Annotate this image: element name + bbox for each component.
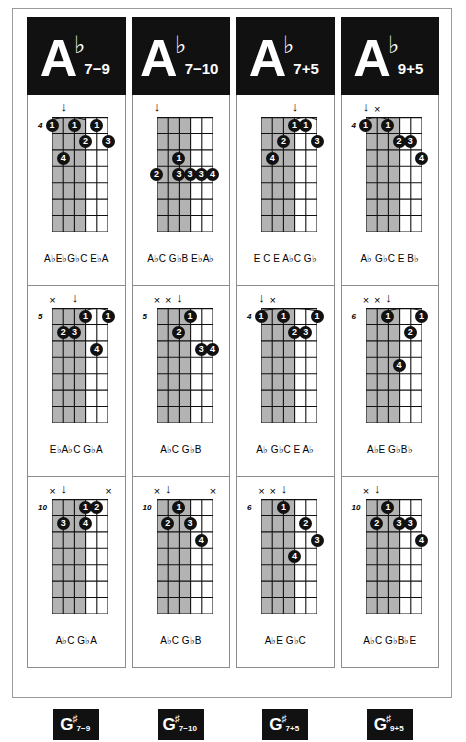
mute-x-icon: × [208,485,219,497]
root-arrow-icon: ↓ [152,101,163,113]
mute-x-icon: × [103,485,114,497]
finger-dot: 1 [299,119,312,132]
chord-note-names: A♭C G♭B [133,444,230,455]
footer-slot: G ♯ 7+5 [236,709,335,740]
fretboard-grid: 11234 [261,117,318,233]
finger-dot: 1 [102,310,115,323]
enharmonic-label-3: G ♯ 9+5 [367,709,413,740]
finger-dot: 4 [206,168,219,181]
finger-dot: 1 [277,310,290,323]
chord-diagram: ×↓×101234A♭C G♭B [133,483,230,615]
enharmonic-quality: 7−10 [179,725,197,733]
fretboard-grid: 1012334 [366,499,423,615]
fretboard-grid: 101234 [52,499,109,615]
chord-note-names: A♭C G♭B♭E [342,635,439,646]
chord-voicing-cell: ↓4111234A♭E♭G♭C E♭A [28,95,125,286]
string-markers: ↓ [52,101,108,117]
fret-number: 5 [38,312,42,321]
chord-note-names: A♭ G♭C E B♭ [342,253,439,264]
chord-accidental: ♭ [74,33,85,57]
string-markers: ↓× [261,292,317,308]
chord-columns: A ♭ 7−9 ↓4111234A♭E♭G♭C E♭A×↓511234E♭A♭C… [27,17,439,668]
mute-x-icon: × [256,485,267,497]
fret-number: 10 [143,503,152,512]
chord-quality: 7−10 [185,61,219,76]
chord-footer-labels: G ♯ 7−9G ♯ 7−10G ♯ 7+5G ♯ 9+5 [27,709,439,740]
fret-number: 4 [352,121,356,130]
enharmonic-label-1: G ♯ 7−10 [158,709,204,740]
chord-column: A ♭ 9+5 ↓×411234A♭ G♭C E B♭××↓61124A♭E G… [341,17,440,668]
enharmonic-root: G [374,716,387,733]
fretboard-grid: 411123 [261,308,318,424]
finger-dot: 2 [150,168,163,181]
chord-column: A ♭ 7+5 ↓11234E C E A♭C G♭↓×411123A♭ G♭C… [236,17,335,668]
root-arrow-icon: ↓ [361,101,372,113]
chord-root: A [249,37,286,80]
finger-dot: 3 [184,517,197,530]
root-arrow-icon: ↓ [290,101,301,113]
fretboard-grid: 411234 [366,117,423,233]
finger-dot: 1 [68,119,81,132]
chord-diagram: ×↓511234E♭A♭C G♭A [28,292,125,424]
finger-dot: 1 [415,310,428,323]
fretboard-grid: 4111234 [52,117,109,233]
chord-root: A [40,37,77,80]
finger-dot: 3 [102,135,115,148]
chord-diagram: ××↓51234A♭C G♭B [133,292,230,424]
fretboard-grid: 511234 [52,308,109,424]
chord-note-names: E C E A♭C G♭ [237,253,334,264]
chord-accidental: ♭ [388,33,399,57]
finger-dot: 4 [288,550,301,563]
chord-diagram: ×↓1012334A♭C G♭B♭E [342,483,439,615]
mute-x-icon: × [267,485,278,497]
chord-chart-page: A ♭ 7−9 ↓4111234A♭E♭G♭C E♭A×↓511234E♭A♭C… [12,8,452,698]
finger-dot: 1 [359,119,372,132]
chord-voicing-cell: ×↓×101234A♭C G♭B [133,477,230,667]
chord-voicing-cell: ×↓1012334A♭C G♭B♭E [342,477,439,667]
enharmonic-root: G [269,716,282,733]
chord-voicing-cell: ↓11234E C E A♭C G♭ [237,95,334,286]
fret-number: 6 [352,312,356,321]
chord-note-names: A♭ G♭C E A♭ [237,444,334,455]
finger-dot: 4 [90,343,103,356]
chord-voicing-cell: ××↓61234A♭E G♭C [237,477,334,667]
chord-header-0: A ♭ 7−9 [27,17,126,95]
string-markers: ×↓ [52,292,108,308]
chord-note-names: A♭C G♭B [133,635,230,646]
chord-voicing-cell: ↓123334A♭C G♭B E♭A♭ [133,95,230,286]
finger-dot: 1 [277,501,290,514]
string-markers: ×↓× [157,483,213,499]
finger-dot: 1 [311,310,324,323]
enharmonic-label-2: G ♯ 7+5 [262,709,308,740]
chord-body: ↓×411234A♭ G♭C E B♭××↓61124A♭E G♭B♭×↓101… [341,95,440,668]
enharmonic-accidental: ♯ [282,714,287,724]
mute-x-icon: × [361,294,372,306]
mute-x-icon: × [47,294,58,306]
fret-number: 4 [247,312,251,321]
root-arrow-icon: ↓ [256,292,267,304]
chord-voicing-cell: ↓×411234A♭ G♭C E B♭ [342,95,439,286]
enharmonic-root: G [163,716,176,733]
chord-voicing-cell: ×↓×101234A♭C G♭A [28,477,125,667]
enharmonic-accidental: ♯ [175,714,180,724]
chord-diagram: ↓11234E C E A♭C G♭ [237,101,334,233]
string-markers: ↓× [366,101,422,117]
footer-slot: G ♯ 7−9 [27,709,126,740]
finger-dot: 3 [311,135,324,148]
mute-x-icon: × [163,294,174,306]
fret-number: 10 [38,503,47,512]
chord-diagram: ↓4111234A♭E♭G♭C E♭A [28,101,125,233]
chord-column: A ♭ 7−10 ↓123334A♭C G♭B E♭A♭××↓51234A♭C … [132,17,231,668]
fretboard-grid: 101234 [157,499,214,615]
root-arrow-icon: ↓ [278,483,289,495]
string-markers: ××↓ [261,483,317,499]
mute-x-icon: × [372,294,383,306]
mute-x-icon: × [372,103,383,115]
fret-number: 10 [352,503,361,512]
string-markers: ××↓ [366,292,422,308]
chord-note-names: A♭C G♭A [28,635,125,646]
chord-diagram: ×↓×101234A♭C G♭A [28,483,125,615]
mute-x-icon: × [152,294,163,306]
chord-column: A ♭ 7−9 ↓4111234A♭E♭G♭C E♭A×↓511234E♭A♭C… [27,17,126,668]
root-arrow-icon: ↓ [69,292,80,304]
